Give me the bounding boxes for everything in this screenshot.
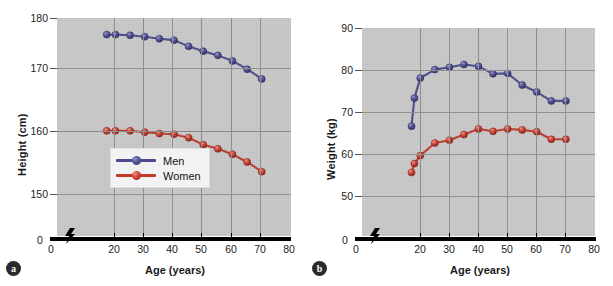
panel-b-x-tick-20: 20	[406, 243, 434, 255]
panel-b-x-tickmark-50	[507, 233, 508, 238]
panel-a-y-tick-150: 150	[0, 188, 48, 200]
panel-a-gridline-x-70	[260, 18, 261, 236]
panel-b-gridline-x-70	[565, 28, 566, 236]
panel-a-x-tick-80: 80	[275, 243, 303, 255]
panel-a-x-tickmark-40	[172, 233, 173, 238]
panel-b-axis-break-icon	[368, 228, 382, 244]
panel-a: Height (cm) 180 170 160 150 0	[0, 0, 306, 286]
panel-b-x-tick-70: 70	[551, 243, 579, 255]
panel-a-x-tickmark-70	[260, 233, 261, 238]
panel-b-y-tickmark-80	[355, 70, 362, 71]
panel-b-x-tick-30: 30	[435, 243, 463, 255]
legend-dot-women	[132, 171, 141, 180]
legend-entry-men: Men	[116, 153, 201, 168]
panel-a-x-tick-30: 30	[129, 243, 157, 255]
panel-a-gridline-y-170	[57, 68, 291, 69]
panel-a-data-layer	[57, 18, 291, 236]
panel-b-gridline-x-30	[449, 28, 450, 236]
panel-b-gridline-x-40	[478, 28, 479, 236]
legend-swatch-men	[116, 155, 156, 166]
panel-b-y-tickmark-70	[355, 112, 362, 113]
panel-a-y-tickmark-170	[50, 68, 57, 69]
panel-b: Weight (kg) 90 80 70 60 50 0	[307, 0, 613, 286]
panel-b-x-tick-80: 80	[580, 243, 608, 255]
panel-b-x-tick-0: 0	[353, 243, 359, 255]
panel-a-gridline-x-30	[143, 18, 144, 236]
panel-b-gridline-x-50	[507, 28, 508, 236]
legend-entry-women: Women	[116, 168, 201, 183]
panel-a-y-tickmark-150	[50, 194, 57, 195]
legend-label-women: Women	[163, 170, 201, 182]
panel-a-x-tick-40: 40	[158, 243, 186, 255]
panel-b-y-tick-zero: 0	[342, 234, 348, 246]
panel-b-y-tick-90: 90	[307, 22, 353, 34]
panel-b-x-tick-50: 50	[493, 243, 521, 255]
legend-label-men: Men	[163, 155, 184, 167]
panel-b-y-tick-50: 50	[307, 190, 353, 202]
panel-b-x-axis-label: Age (years)	[415, 264, 545, 276]
panel-a-y-tickmark-180	[50, 18, 57, 19]
panel-a-x-tick-20: 20	[100, 243, 128, 255]
panel-a-x-tick-60: 60	[217, 243, 245, 255]
panel-a-y-tick-170: 170	[0, 62, 48, 74]
panel-a-x-tickmark-30	[143, 233, 144, 238]
panel-a-x-tick-70: 70	[246, 243, 274, 255]
panel-b-badge: b	[312, 261, 327, 276]
panel-b-gridline-y-70	[362, 112, 595, 113]
panel-a-legend: Men Women	[110, 148, 210, 188]
panel-a-axis-break-icon	[63, 228, 77, 244]
panel-b-plot-area	[362, 28, 595, 236]
panel-a-gridline-x-50	[201, 18, 202, 236]
panel-a-y-tick-160: 160	[0, 125, 48, 137]
panel-b-gridline-x-20	[420, 28, 421, 236]
panel-a-gridline-x-40	[172, 18, 173, 236]
panel-a-gridline-y-160	[57, 131, 291, 132]
panel-b-x-tickmark-70	[565, 233, 566, 238]
panel-b-y-tick-70: 70	[307, 106, 353, 118]
panel-a-x-tickmark-20	[114, 233, 115, 238]
panel-a-x-tickmark-60	[231, 233, 232, 238]
panel-b-y-tickmark-60	[355, 154, 362, 155]
panel-a-x-tick-50: 50	[187, 243, 215, 255]
panel-b-gridline-y-80	[362, 70, 595, 71]
panel-b-x-tickmark-60	[536, 233, 537, 238]
panel-b-x-tickmark-30	[449, 233, 450, 238]
panel-a-plot-area	[57, 18, 291, 236]
legend-dot-men	[132, 156, 141, 165]
panel-a-y-tick-zero: 0	[37, 234, 43, 246]
panel-b-y-tickmark-90	[355, 28, 362, 29]
panel-b-x-tick-60: 60	[522, 243, 550, 255]
panel-b-gridline-y-60	[362, 154, 595, 155]
panel-a-gridline-x-60	[231, 18, 232, 236]
panel-b-x-axis-line	[355, 237, 596, 241]
panel-b-y-tick-80: 80	[307, 64, 353, 76]
panel-a-badge: a	[6, 261, 21, 276]
figure-two-panel-chart: Height (cm) 180 170 160 150 0	[0, 0, 613, 286]
panel-a-gridline-y-150	[57, 194, 291, 195]
panel-b-x-tickmark-20	[420, 233, 421, 238]
panel-b-gridline-y-50	[362, 196, 595, 197]
panel-a-x-axis-line	[50, 237, 291, 241]
panel-a-x-axis-label: Age (years)	[110, 264, 240, 276]
legend-swatch-women	[116, 170, 156, 181]
panel-a-y-tickmark-160	[50, 131, 57, 132]
panel-b-y-tick-60: 60	[307, 148, 353, 160]
panel-a-x-tick-0: 0	[48, 243, 54, 255]
panel-b-gridline-x-60	[536, 28, 537, 236]
panel-a-gridline-x-20	[114, 18, 115, 236]
panel-b-y-tickmark-50	[355, 196, 362, 197]
panel-b-x-tickmark-40	[478, 233, 479, 238]
panel-a-x-tickmark-50	[201, 233, 202, 238]
panel-a-y-axis-label: Height (cm)	[16, 113, 28, 176]
panel-a-y-tick-180: 180	[0, 12, 48, 24]
panel-b-x-tick-40: 40	[464, 243, 492, 255]
